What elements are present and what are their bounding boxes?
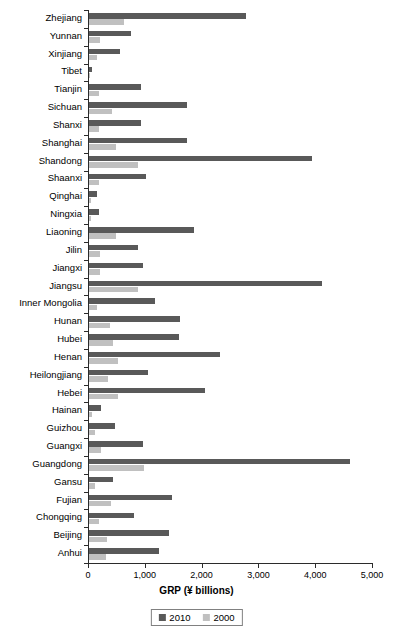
- bar-2010: [89, 495, 172, 501]
- y-axis-tick: [84, 28, 88, 29]
- bar-2010: [89, 423, 115, 429]
- bar-2000: [89, 216, 91, 222]
- category-label: Inner Mongolia: [0, 297, 82, 308]
- y-axis-tick: [84, 278, 88, 279]
- bar-2000: [89, 233, 116, 239]
- category-label: Gansu: [0, 476, 82, 487]
- x-axis-tick: [88, 563, 89, 568]
- category-label: Beijing: [0, 529, 82, 540]
- legend-label: 2000: [214, 612, 235, 623]
- x-axis-tick-label: 0: [85, 570, 90, 580]
- x-axis-tick: [372, 563, 373, 568]
- chart-legend: 20102000: [150, 609, 242, 626]
- bar-2010: [89, 102, 187, 108]
- y-axis-tick: [84, 295, 88, 296]
- y-axis-tick: [84, 349, 88, 350]
- category-label: Sichuan: [0, 101, 82, 112]
- bar-2000: [89, 554, 106, 560]
- bar-2010: [89, 477, 113, 483]
- legend-swatch-icon: [158, 614, 165, 621]
- y-axis-tick: [84, 99, 88, 100]
- y-axis-tick: [84, 367, 88, 368]
- bar-2000: [89, 287, 138, 293]
- bar-2000: [89, 109, 112, 115]
- bar-2000: [89, 430, 95, 436]
- bar-2010: [89, 281, 322, 287]
- y-axis-tick: [84, 242, 88, 243]
- x-axis-tick: [315, 563, 316, 568]
- x-axis-tick-label: 5,000: [361, 570, 384, 580]
- bar-2010: [89, 67, 92, 73]
- bar-2000: [89, 537, 107, 543]
- y-axis-tick: [84, 545, 88, 546]
- category-label: Jiangxi: [0, 262, 82, 273]
- legend-item: 2010: [158, 612, 190, 623]
- category-label: Fujian: [0, 494, 82, 505]
- bar-2010: [89, 548, 159, 554]
- bar-2010: [89, 263, 143, 269]
- legend-item: 2000: [203, 612, 235, 623]
- bar-2000: [89, 251, 100, 257]
- y-axis-tick: [84, 135, 88, 136]
- y-axis-tick: [84, 420, 88, 421]
- y-axis-tick: [84, 188, 88, 189]
- x-axis-tick-label: 1,000: [134, 570, 157, 580]
- bar-2000: [89, 198, 91, 204]
- legend-swatch-icon: [203, 614, 210, 621]
- category-label: Anhui: [0, 547, 82, 558]
- x-axis-tick-label: 2,000: [190, 570, 213, 580]
- bar-2000: [89, 519, 99, 525]
- y-axis-tick: [84, 474, 88, 475]
- y-axis-tick: [84, 456, 88, 457]
- bar-2010: [89, 227, 194, 233]
- bar-2000: [89, 37, 100, 43]
- category-label: Chongqing: [0, 511, 82, 522]
- x-axis-tick: [145, 563, 146, 568]
- category-label: Hubei: [0, 333, 82, 344]
- y-axis-tick: [84, 509, 88, 510]
- y-axis-tick: [84, 492, 88, 493]
- x-axis-title: GRP (¥ billions): [0, 585, 393, 596]
- bar-2010: [89, 13, 246, 19]
- bar-2000: [89, 358, 118, 364]
- category-label: Guangdong: [0, 458, 82, 469]
- bar-2000: [89, 340, 113, 346]
- y-axis-tick: [84, 64, 88, 65]
- bar-2000: [89, 447, 101, 453]
- bar-2000: [89, 305, 97, 311]
- x-axis-line: [88, 563, 373, 564]
- category-label: Xinjiang: [0, 48, 82, 59]
- bar-2010: [89, 316, 180, 322]
- bar-2010: [89, 298, 155, 304]
- y-axis-tick: [84, 224, 88, 225]
- category-label: Henan: [0, 351, 82, 362]
- bar-2010: [89, 84, 141, 90]
- bar-2010: [89, 405, 101, 411]
- category-label: Hainan: [0, 404, 82, 415]
- y-axis-tick: [84, 527, 88, 528]
- category-label: Shanxi: [0, 119, 82, 130]
- y-axis-tick: [84, 313, 88, 314]
- bar-2000: [89, 19, 124, 25]
- bar-2000: [89, 91, 99, 97]
- y-axis-tick: [84, 81, 88, 82]
- bar-2010: [89, 209, 99, 215]
- category-label: Tianjin: [0, 83, 82, 94]
- bar-2010: [89, 352, 220, 358]
- bar-2000: [89, 376, 108, 382]
- y-axis-tick: [84, 153, 88, 154]
- category-label: Ningxia: [0, 208, 82, 219]
- bar-2010: [89, 388, 205, 394]
- bar-2000: [89, 162, 138, 168]
- bar-2010: [89, 513, 134, 519]
- category-label: Shaanxi: [0, 172, 82, 183]
- x-axis-tick-label: 4,000: [304, 570, 327, 580]
- category-label: Yunnan: [0, 30, 82, 41]
- bar-2010: [89, 138, 187, 144]
- bar-2010: [89, 120, 141, 126]
- bar-2010: [89, 245, 138, 251]
- category-label: Qinghai: [0, 190, 82, 201]
- y-axis-tick: [84, 385, 88, 386]
- category-label: Hebei: [0, 387, 82, 398]
- bar-2010: [89, 31, 131, 37]
